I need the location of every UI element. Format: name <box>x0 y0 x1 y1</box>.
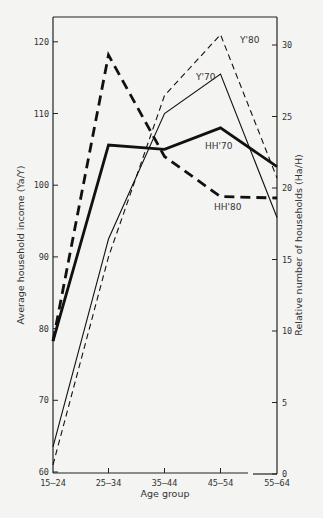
y-tick-label-right: 15 <box>282 255 292 265</box>
y-tick-label-left: 100 <box>34 180 49 190</box>
x-tick-label: 45–54 <box>208 478 234 488</box>
x-tick-label: 25–34 <box>96 478 122 488</box>
series-label: HH'80 <box>214 202 242 212</box>
series-line-hh80 <box>53 55 277 341</box>
y-axis-title-right: Relative number of households (Ha/H) <box>293 154 304 335</box>
y-tick-label-right: 5 <box>282 398 287 408</box>
series-label: HH'70 <box>205 141 233 151</box>
axes: 6070809010011012005101520253015–2425–343… <box>34 17 293 488</box>
y-tick-label-right: 25 <box>282 112 292 122</box>
y-tick-label-right: 10 <box>282 326 292 336</box>
y-tick-label-left: 70 <box>39 395 49 405</box>
series-label: Y'70 <box>195 72 216 82</box>
line-chart: 6070809010011012005101520253015–2425–343… <box>0 0 323 518</box>
series-label: Y'80 <box>239 35 260 45</box>
series-line-y80 <box>53 35 277 465</box>
series-line-hh70 <box>53 128 277 341</box>
y-tick-label-left: 110 <box>34 109 49 119</box>
x-tick-label: 55–64 <box>264 478 290 488</box>
x-tick-label: 15–24 <box>40 478 66 488</box>
x-tick-label: 35–44 <box>152 478 178 488</box>
y-tick-label-left: 80 <box>39 324 49 334</box>
x-axis-title: Age group <box>141 488 190 499</box>
series-line-y70 <box>53 74 277 447</box>
y-tick-label-right: 30 <box>282 40 292 50</box>
y-tick-label-left: 120 <box>34 37 49 47</box>
series-lines <box>53 35 277 465</box>
y-tick-label-right: 20 <box>282 183 292 193</box>
y-tick-label-left: 90 <box>39 252 49 262</box>
y-tick-label-left: 60 <box>39 467 49 477</box>
y-axis-title-left: Average household income (Ya/Y) <box>15 166 26 325</box>
